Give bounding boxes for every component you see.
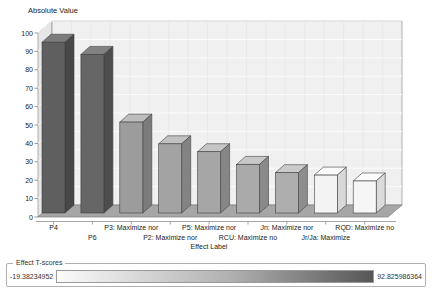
y-tick-label: 10	[25, 195, 33, 202]
x-category-label: P3: Maximize nor	[104, 224, 159, 231]
bar	[314, 175, 337, 213]
y-tick-label: 0	[29, 214, 33, 221]
legend-max-value: 92.825986364	[377, 273, 422, 280]
y-axis-title: Absolute Value	[28, 6, 78, 15]
tscore-gradient-bar	[56, 270, 374, 283]
x-category-label: P6	[88, 234, 97, 241]
bar-side	[143, 114, 152, 213]
y-tick-label: 90	[25, 48, 33, 55]
bar	[275, 173, 298, 213]
y-tick-label: 60	[25, 103, 33, 110]
x-category-label: Jr/Ja: Maximize	[301, 234, 350, 241]
bar-side	[104, 46, 113, 213]
x-category-label: RCU: Maximize no	[219, 234, 277, 241]
bar-side	[260, 156, 269, 213]
x-category-label: Jn: Maximize nor	[260, 224, 314, 231]
x-category-label: RQD: Maximize no	[335, 224, 394, 232]
chart-panel: 0102030405060708090100P4P6P3: Maximize n…	[0, 0, 433, 299]
bar	[198, 152, 221, 213]
effect-tscores-legend: Effect T-scores -19.38234952 92.82598636…	[6, 263, 426, 287]
bar-chart: 0102030405060708090100P4P6P3: Maximize n…	[0, 0, 433, 260]
x-category-label: P2: Maximize nor	[143, 234, 198, 241]
y-tick-label: 30	[25, 158, 33, 165]
x-category-label: P5: Maximize nor	[182, 224, 237, 231]
x-axis-title: Effect Label	[191, 243, 228, 250]
bar-side	[65, 34, 74, 213]
bar-side	[298, 165, 307, 213]
y-tick-label: 100	[21, 30, 33, 37]
bar	[81, 54, 104, 213]
legend-min-value: -19.38234952	[10, 273, 53, 280]
bar	[120, 122, 143, 213]
bar-side	[182, 136, 191, 213]
y-tick-label: 80	[25, 66, 33, 73]
x-category-label: P4	[49, 224, 58, 231]
bar-side	[337, 167, 346, 213]
bar	[353, 181, 376, 213]
bar	[237, 164, 260, 213]
legend-title: Effect T-scores	[13, 259, 65, 266]
y-tick-label: 20	[25, 177, 33, 184]
bar-side	[221, 144, 230, 213]
y-tick-label: 70	[25, 85, 33, 92]
y-tick-label: 40	[25, 140, 33, 147]
bar	[42, 42, 65, 213]
bar	[159, 144, 182, 213]
y-tick-label: 50	[25, 122, 33, 129]
